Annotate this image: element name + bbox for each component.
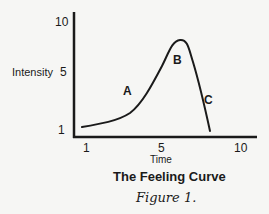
x-axis-label: Time	[150, 154, 172, 165]
y-axis-label: Intensity	[12, 66, 53, 78]
x-tick-1: 1	[83, 141, 90, 155]
y-tick-5: 5	[60, 65, 67, 79]
x-tick-10: 10	[234, 141, 247, 155]
point-label-b: B	[173, 53, 182, 67]
chart-title: The Feeling Curve	[113, 169, 226, 184]
figure-caption: Figure 1.	[136, 190, 196, 205]
y-tick-1: 1	[58, 123, 65, 137]
point-label-c: C	[204, 93, 213, 107]
y-tick-10: 10	[55, 15, 68, 29]
point-label-a: A	[123, 84, 132, 98]
x-tick-5: 5	[158, 141, 165, 155]
feeling-curve-line	[82, 40, 210, 131]
